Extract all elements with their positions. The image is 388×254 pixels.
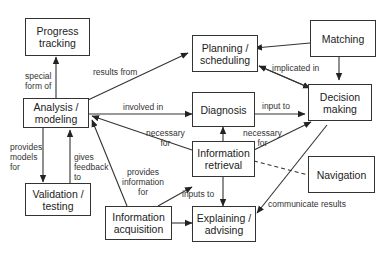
node-matching: Matching [310, 20, 376, 57]
edge-label-results-from: results from [93, 67, 137, 77]
node-planning-scheduling: Planning / scheduling [192, 35, 258, 72]
node-information-acquisition: Information acquisition [105, 206, 172, 240]
node-validation-testing: Validation / testing [25, 183, 91, 216]
edge-label-special-form-of: special form of [25, 71, 51, 91]
edge-label-provides-models-for: provides models for [10, 142, 42, 172]
node-analysis-modeling: Analysis / modeling [23, 98, 89, 128]
node-explaining-advising: Explaining / advising [192, 206, 256, 242]
edge-label-inputs-to: inputs to [182, 189, 214, 199]
edge-label-input-to: input to [262, 101, 290, 111]
node-decision-making: Decision making [308, 84, 372, 121]
edge-label-implicated-in: implicated in [272, 63, 319, 73]
edge-label-provides-information-for: provides information for [122, 167, 164, 197]
edge-label-involved-in: involved in [123, 102, 163, 112]
edge-label-necessary-for-analysis: necessary for [146, 128, 185, 148]
edge-label-communicate-results: communicate results [268, 199, 346, 209]
edge-label-gives-feedback-to: gives feedback to [74, 152, 109, 182]
node-diagnosis: Diagnosis [192, 92, 255, 127]
node-navigation: Navigation [308, 156, 375, 193]
edge-label-necessary-for-decision: necessary for [243, 128, 282, 148]
node-progress-tracking: Progress tracking [25, 18, 90, 56]
